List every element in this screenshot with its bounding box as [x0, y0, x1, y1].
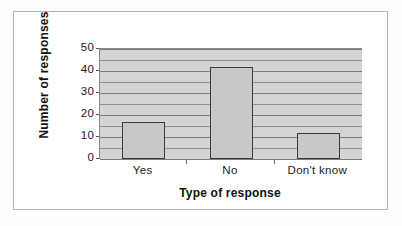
chart-frame: Number of responses 01020304050 YesNoDon…	[13, 11, 388, 210]
y-tick-label-10: 10	[68, 130, 94, 141]
gridline-0	[100, 159, 362, 160]
y-axis-title: Number of responses	[37, 8, 51, 143]
bar-no[interactable]	[210, 67, 253, 159]
bar-don-t-know[interactable]	[297, 133, 340, 159]
x-axis-title: Type of response	[99, 186, 361, 200]
bar-chart-figure: Number of responses 01020304050 YesNoDon…	[0, 0, 402, 226]
y-tick-label-0: 0	[68, 152, 94, 163]
y-tick-label-20: 20	[68, 108, 94, 119]
x-tick-label-don-t-know: Don't know	[274, 164, 361, 176]
y-tick-label-50: 50	[68, 42, 94, 53]
x-tick-label-no: No	[186, 164, 273, 176]
y-tick-label-40: 40	[68, 64, 94, 75]
bar-yes[interactable]	[122, 122, 165, 159]
plot-area	[99, 48, 362, 159]
x-axis-tick-labels: YesNoDon't know	[99, 164, 361, 182]
y-tick-label-30: 30	[68, 86, 94, 97]
y-axis-tick-labels: 01020304050	[64, 48, 94, 158]
x-tick-label-yes: Yes	[99, 164, 186, 176]
bar-series	[100, 49, 362, 159]
